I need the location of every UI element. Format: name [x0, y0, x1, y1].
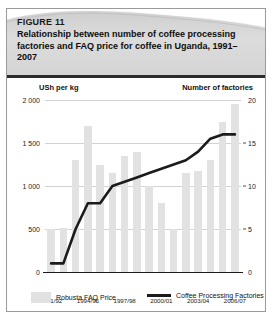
chart-legend: Robusta FAQ Price Coffee Processing Fact…	[7, 286, 266, 310]
figure-title: Relationship between number of coffee pr…	[17, 29, 257, 64]
left-axis-tick: 0	[36, 269, 40, 276]
right-axis-tick: 5	[248, 226, 252, 233]
legend-item-robusta-faq-price: Robusta FAQ Price	[31, 292, 116, 303]
legend-item-coffee-processing-factories: Coffee Processing Factories	[147, 292, 264, 299]
left-axis-tick: 2 000	[22, 97, 40, 104]
right-axis-tick: 20	[248, 97, 256, 104]
legend-swatch-line	[147, 294, 171, 297]
right-axis-tick: 10	[248, 183, 256, 190]
plot-area: 05001 0001 5002 000 05101520 1991/921994…	[45, 100, 241, 272]
figure-card: FIGURE 11 Relationship between number of…	[6, 8, 266, 312]
left-axis-tick: 1 000	[22, 183, 40, 190]
legend-swatch-bar	[31, 292, 51, 303]
right-axis-caption: Number of factories	[182, 83, 253, 92]
left-axis-caption: USh per kg	[39, 83, 79, 92]
right-axis-tick-mark	[243, 229, 246, 230]
line-series-coffee-processing-factories	[45, 100, 241, 272]
left-axis-tick: 1 500	[22, 140, 40, 147]
legend-label-robusta-faq-price: Robusta FAQ Price	[56, 294, 116, 301]
right-axis-tick: 0	[248, 269, 252, 276]
left-axis-tick: 500	[28, 226, 40, 233]
right-axis-tick-mark	[243, 143, 246, 144]
right-axis-tick-mark	[243, 186, 246, 187]
figure-header-text: FIGURE 11 Relationship between number of…	[17, 17, 257, 64]
right-axis-tick: 15	[248, 140, 256, 147]
figure-number: FIGURE 11	[17, 17, 257, 28]
figure-header-band: FIGURE 11 Relationship between number of…	[7, 9, 266, 75]
chart-region: USh per kg Number of factories 05001 000…	[7, 78, 266, 312]
legend-label-coffee-processing-factories: Coffee Processing Factories	[176, 292, 264, 299]
x-axis-baseline	[43, 272, 243, 274]
